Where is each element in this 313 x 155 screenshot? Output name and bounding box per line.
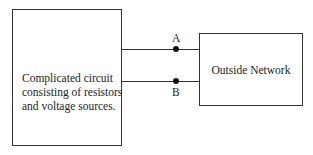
outside-network-box: Outside Network — [199, 33, 303, 106]
circuit-line-3: and voltage sources. — [22, 99, 122, 113]
circuit-line-1: Complicated circuit — [22, 71, 122, 85]
wire-a — [121, 49, 200, 50]
circuit-line-2: consisting of resistors — [22, 85, 122, 99]
outside-network-label: Outside Network — [212, 64, 291, 76]
terminal-b-label: B — [172, 86, 180, 98]
terminal-a-dot — [173, 46, 179, 52]
wire-b — [121, 81, 200, 82]
complicated-circuit-box: Complicated circuit consisting of resist… — [12, 9, 122, 146]
terminal-b-dot — [173, 78, 179, 84]
terminal-a-label: A — [172, 32, 180, 44]
circuit-description: Complicated circuit consisting of resist… — [22, 71, 122, 113]
